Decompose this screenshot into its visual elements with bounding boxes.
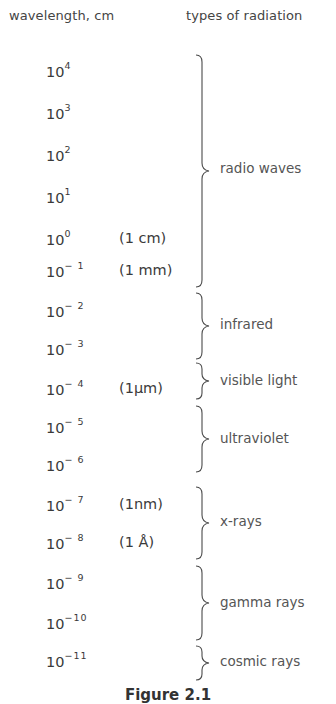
wavelength-row: 10− 6: [0, 456, 200, 476]
wavelength-row: 10− 2: [0, 302, 200, 322]
wavelength-row: 100 (1 cm): [0, 230, 200, 250]
wavelength-row: 10−11: [0, 652, 200, 672]
wavelength-value: 102: [46, 146, 72, 164]
brace-radio-waves-icon: [192, 54, 214, 288]
header-wavelength: wavelength, cm: [9, 8, 114, 23]
type-label-ultraviolet: ultraviolet: [220, 430, 289, 446]
wavelength-value: 100: [46, 230, 72, 248]
wavelength-note: (1nm): [119, 496, 163, 512]
wavelength-value: 10− 4: [46, 380, 84, 398]
wavelength-row: 10− 7 (1nm): [0, 496, 200, 516]
wavelength-row: 10− 3: [0, 340, 200, 360]
wavelength-value: 10− 9: [46, 574, 84, 592]
type-label-infrared: infrared: [220, 316, 273, 332]
wavelength-note: (1 Å): [119, 534, 154, 550]
brace-visible-light-icon: [192, 362, 214, 400]
wavelength-value: 10− 8: [46, 534, 84, 552]
brace-gamma-rays-icon: [192, 565, 214, 641]
type-label-radio-waves: radio waves: [220, 160, 301, 176]
type-label-gamma-rays: gamma rays: [220, 594, 305, 610]
wavelength-row: 10− 8 (1 Å): [0, 534, 200, 554]
wavelength-row: 101: [0, 188, 200, 208]
figure-caption: Figure 2.1: [0, 686, 336, 704]
brace-x-rays-icon: [192, 486, 214, 560]
wavelength-value: 10− 3: [46, 340, 84, 358]
wavelength-row: 10− 9: [0, 574, 200, 594]
wavelength-value: 10−10: [46, 614, 88, 632]
brace-cosmic-rays-icon: [192, 645, 214, 681]
wavelength-row: 10− 5: [0, 418, 200, 438]
header-radiation-types: types of radiation: [186, 8, 302, 23]
brace-ultraviolet-icon: [192, 405, 214, 473]
brace-infrared-icon: [192, 292, 214, 360]
wavelength-note: (1 mm): [119, 262, 172, 278]
wavelength-value: 10− 6: [46, 456, 84, 474]
wavelength-value: 101: [46, 188, 72, 206]
wavelength-note: (1 cm): [119, 230, 166, 246]
type-label-visible-light: visible light: [220, 372, 297, 388]
wavelength-row: 102: [0, 146, 200, 166]
wavelength-value: 104: [46, 62, 72, 80]
wavelength-value: 103: [46, 104, 72, 122]
wavelength-note: (1μm): [119, 380, 163, 396]
wavelength-value: 10−11: [46, 652, 88, 670]
wavelength-row: 10− 1 (1 mm): [0, 262, 200, 282]
wavelength-value: 10− 1: [46, 262, 84, 280]
wavelength-value: 10− 7: [46, 496, 84, 514]
wavelength-row: 104: [0, 62, 200, 82]
wavelength-row: 10−10: [0, 614, 200, 634]
wavelength-row: 10− 4 (1μm): [0, 380, 200, 400]
type-label-x-rays: x-rays: [220, 513, 262, 529]
wavelength-value: 10− 5: [46, 418, 84, 436]
wavelength-value: 10− 2: [46, 302, 84, 320]
type-label-cosmic-rays: cosmic rays: [220, 653, 300, 669]
wavelength-row: 103: [0, 104, 200, 124]
